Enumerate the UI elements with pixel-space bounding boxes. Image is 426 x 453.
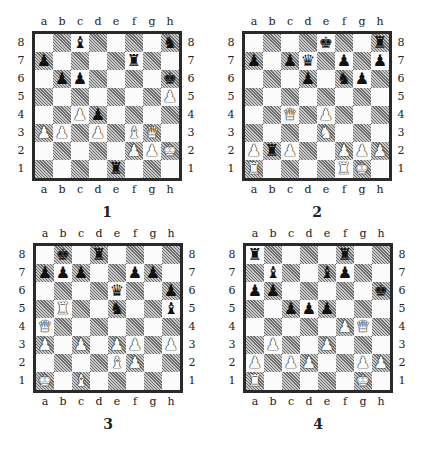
square-c5[interactable] bbox=[71, 88, 89, 106]
square-b8[interactable] bbox=[53, 34, 71, 52]
white-pawn-icon[interactable]: ♟ bbox=[163, 88, 177, 106]
square-g6[interactable] bbox=[143, 70, 161, 88]
square-h8[interactable] bbox=[162, 246, 180, 264]
square-c5[interactable] bbox=[281, 88, 299, 106]
square-a8[interactable]: ♜ bbox=[246, 246, 264, 264]
white-pawn-icon[interactable]: ♟ bbox=[55, 124, 69, 142]
square-d8[interactable] bbox=[300, 246, 318, 264]
square-g2[interactable]: ♟ bbox=[143, 142, 161, 160]
square-c8[interactable] bbox=[282, 246, 300, 264]
square-b4[interactable] bbox=[53, 106, 71, 124]
white-pawn-icon[interactable]: ♟ bbox=[320, 336, 334, 354]
square-b6[interactable] bbox=[263, 70, 281, 88]
square-e8[interactable] bbox=[318, 246, 336, 264]
square-h6[interactable] bbox=[371, 70, 389, 88]
square-d8[interactable]: ♜ bbox=[90, 246, 108, 264]
square-f1[interactable] bbox=[125, 160, 143, 178]
square-b2[interactable] bbox=[53, 142, 71, 160]
square-e2[interactable] bbox=[318, 354, 336, 372]
black-knight-icon[interactable]: ♞ bbox=[110, 300, 124, 318]
black-knight-icon[interactable]: ♞ bbox=[163, 34, 177, 52]
square-f6[interactable]: ♞ bbox=[335, 70, 353, 88]
square-b5[interactable] bbox=[263, 88, 281, 106]
square-g7[interactable] bbox=[143, 52, 161, 70]
square-e5[interactable]: ♞ bbox=[108, 300, 126, 318]
square-e8[interactable] bbox=[108, 246, 126, 264]
white-pawn-icon[interactable]: ♟ bbox=[145, 142, 159, 160]
square-e4[interactable] bbox=[107, 106, 125, 124]
square-e5[interactable]: ♟ bbox=[318, 300, 336, 318]
square-b7[interactable] bbox=[53, 52, 71, 70]
square-e5[interactable] bbox=[107, 88, 125, 106]
square-g6[interactable] bbox=[354, 282, 372, 300]
square-e6[interactable] bbox=[318, 282, 336, 300]
white-king-icon[interactable]: ♚ bbox=[356, 372, 370, 390]
square-d4[interactable] bbox=[300, 318, 318, 336]
square-e3[interactable]: ♟ bbox=[108, 336, 126, 354]
square-f5[interactable] bbox=[336, 300, 354, 318]
square-a3[interactable] bbox=[246, 336, 264, 354]
square-a6[interactable] bbox=[35, 70, 53, 88]
white-pawn-icon[interactable]: ♟ bbox=[266, 336, 280, 354]
square-a7[interactable]: ♟ bbox=[245, 52, 263, 70]
square-f4[interactable] bbox=[125, 106, 143, 124]
square-c6[interactable]: ♟ bbox=[71, 70, 89, 88]
square-g4[interactable] bbox=[144, 318, 162, 336]
square-g2[interactable]: ♟ bbox=[354, 354, 372, 372]
square-h8[interactable]: ♜ bbox=[371, 34, 389, 52]
square-f3[interactable]: ♟ bbox=[126, 336, 144, 354]
square-c7[interactable] bbox=[71, 52, 89, 70]
square-a8[interactable] bbox=[35, 34, 53, 52]
square-g6[interactable]: ♟ bbox=[353, 70, 371, 88]
white-pawn-icon[interactable]: ♟ bbox=[91, 124, 105, 142]
white-pawn-icon[interactable]: ♟ bbox=[356, 354, 370, 372]
white-pawn-icon[interactable]: ♟ bbox=[337, 142, 351, 160]
square-e2[interactable] bbox=[107, 142, 125, 160]
square-b5[interactable] bbox=[53, 88, 71, 106]
white-rook-icon[interactable]: ♜ bbox=[56, 300, 70, 318]
square-h4[interactable] bbox=[162, 318, 180, 336]
square-b8[interactable] bbox=[263, 34, 281, 52]
white-queen-icon[interactable]: ♛ bbox=[145, 124, 159, 142]
white-rook-icon[interactable]: ♜ bbox=[247, 160, 261, 178]
square-d7[interactable]: ♛ bbox=[299, 52, 317, 70]
white-pawn-icon[interactable]: ♟ bbox=[373, 142, 387, 160]
black-bishop-icon[interactable]: ♝ bbox=[164, 300, 178, 318]
black-rook-icon[interactable]: ♜ bbox=[265, 142, 279, 160]
black-pawn-icon[interactable]: ♟ bbox=[37, 52, 51, 70]
white-pawn-icon[interactable]: ♟ bbox=[374, 354, 388, 372]
black-pawn-icon[interactable]: ♟ bbox=[338, 264, 352, 282]
square-c4[interactable] bbox=[72, 318, 90, 336]
square-d5[interactable]: ♟ bbox=[300, 300, 318, 318]
square-d4[interactable]: ♟ bbox=[89, 106, 107, 124]
square-a4[interactable]: ♛ bbox=[36, 318, 54, 336]
black-pawn-icon[interactable]: ♟ bbox=[301, 70, 315, 88]
square-a2[interactable] bbox=[35, 142, 53, 160]
square-h5[interactable] bbox=[372, 300, 390, 318]
square-h1[interactable] bbox=[372, 372, 390, 390]
square-g7[interactable]: ♟ bbox=[144, 264, 162, 282]
square-a1[interactable]: ♜ bbox=[245, 160, 263, 178]
square-c5[interactable]: ♟ bbox=[282, 300, 300, 318]
white-queen-icon[interactable]: ♛ bbox=[356, 318, 370, 336]
square-b4[interactable] bbox=[263, 106, 281, 124]
square-f8[interactable] bbox=[335, 34, 353, 52]
square-b1[interactable] bbox=[53, 160, 71, 178]
square-g7[interactable] bbox=[354, 264, 372, 282]
white-king-icon[interactable]: ♚ bbox=[163, 142, 177, 160]
square-d1[interactable] bbox=[300, 372, 318, 390]
square-e7[interactable] bbox=[108, 264, 126, 282]
black-pawn-icon[interactable]: ♟ bbox=[91, 106, 105, 124]
square-c2[interactable]: ♟ bbox=[281, 142, 299, 160]
square-g2[interactable]: ♟ bbox=[353, 142, 371, 160]
black-rook-icon[interactable]: ♜ bbox=[248, 246, 262, 264]
square-c1[interactable] bbox=[71, 160, 89, 178]
square-e4[interactable] bbox=[108, 318, 126, 336]
square-g3[interactable] bbox=[353, 124, 371, 142]
square-h2[interactable] bbox=[162, 354, 180, 372]
square-g1[interactable]: ♚ bbox=[353, 160, 371, 178]
square-b2[interactable] bbox=[264, 354, 282, 372]
square-h4[interactable] bbox=[371, 106, 389, 124]
square-c2[interactable] bbox=[72, 354, 90, 372]
black-pawn-icon[interactable]: ♟ bbox=[373, 52, 387, 70]
